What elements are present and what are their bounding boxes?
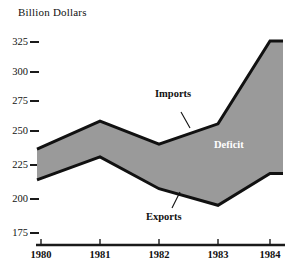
x-tick-label-1983: 1983 [198, 249, 238, 260]
imports-leader-line [181, 112, 190, 128]
x-tick-label-1984: 1984 [250, 249, 290, 260]
x-tick-label-1982: 1982 [139, 249, 179, 260]
plot-area [0, 0, 291, 268]
deficit-shaded-region [37, 41, 283, 205]
series-label-exports: Exports [146, 211, 182, 222]
area-chart: Billion Dollars 325 300 275 250 225 200 … [0, 0, 291, 268]
x-tick-label-1980: 1980 [21, 249, 61, 260]
series-label-imports: Imports [155, 88, 191, 99]
x-tick-label-1981: 1981 [80, 249, 120, 260]
region-label-deficit: Deficit [214, 139, 244, 150]
